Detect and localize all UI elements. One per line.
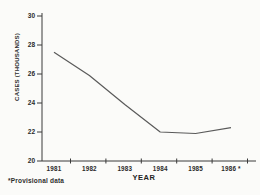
y-tick-label: 24 xyxy=(28,99,36,106)
y-tick-label: 26 xyxy=(28,70,36,77)
x-tick-label: 1983 xyxy=(117,165,132,172)
x-tick-label: 1984 xyxy=(153,165,168,172)
x-tick-label: 1981 xyxy=(47,165,62,172)
x-tick-label: 1986 * xyxy=(221,165,241,172)
chart-figure: 202224262830198119821983198419851986 * C… xyxy=(0,0,260,195)
y-tick-label: 20 xyxy=(28,157,36,164)
footnote: *Provisional data xyxy=(8,177,64,184)
x-tick-label: 1985 xyxy=(188,165,203,172)
y-axis-title: CASES (THOUSANDS) xyxy=(14,32,20,102)
y-tick-label: 28 xyxy=(28,41,36,48)
x-tick-label: 1982 xyxy=(82,165,97,172)
y-tick-label: 22 xyxy=(28,128,36,135)
y-tick-label: 30 xyxy=(28,12,36,19)
chart-canvas: 202224262830198119821983198419851986 * xyxy=(0,0,260,195)
data-line-cases xyxy=(54,52,231,133)
